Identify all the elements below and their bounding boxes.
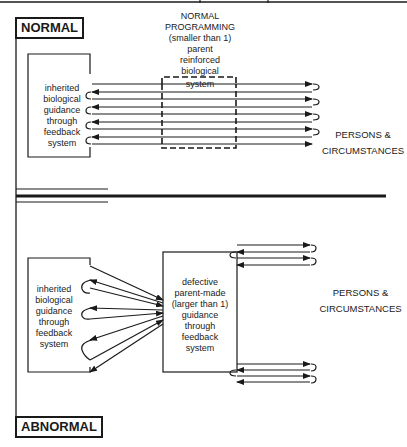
- label-line: reinforced: [155, 55, 245, 66]
- label-line: CIRCUMSTANCES: [318, 143, 407, 159]
- label-line: NORMAL: [155, 11, 245, 22]
- label-line: biological: [155, 66, 245, 77]
- label-line: defective: [165, 277, 235, 288]
- label-line: biological: [30, 295, 78, 306]
- label-line: (smaller than 1): [155, 33, 245, 44]
- label-line: CIRCUMSTANCES: [313, 301, 407, 317]
- label-line: feedback: [165, 332, 235, 343]
- label-line: through: [36, 116, 88, 127]
- label-line: PROGRAMMING: [155, 22, 245, 33]
- label-line: guidance: [30, 306, 78, 317]
- abnormal-inherited-label: inherited biological guidance through fe…: [30, 284, 78, 350]
- label-line: (larger than 1): [165, 299, 235, 310]
- abnormal-persons-label: PERSONS & CIRCUMSTANCES: [313, 285, 407, 317]
- label-line: inherited: [36, 83, 88, 94]
- label-line: guidance: [165, 310, 235, 321]
- label-line: parent: [155, 44, 245, 55]
- normal-inherited-label: inherited biological guidance through fe…: [36, 83, 88, 149]
- abnormal-section-label: ABNORMAL: [15, 416, 103, 438]
- label-line: system: [155, 79, 245, 90]
- normal-programming-label: NORMAL PROGRAMMING (smaller than 1) pare…: [155, 11, 245, 90]
- label-line: inherited: [30, 284, 78, 295]
- label-line: through: [30, 317, 78, 328]
- label-line: PERSONS &: [318, 127, 407, 143]
- label-line: PERSONS &: [313, 285, 407, 301]
- label-line: feedback: [36, 127, 88, 138]
- label-line: through: [165, 321, 235, 332]
- label-line: system: [30, 339, 78, 350]
- label-line: feedback: [30, 328, 78, 339]
- label-line: parent-made: [165, 288, 235, 299]
- label-line: biological: [36, 94, 88, 105]
- normal-persons-label: PERSONS & CIRCUMSTANCES: [318, 127, 407, 159]
- label-line: system: [165, 343, 235, 354]
- abnormal-defective-label: defective parent-made (larger than 1) gu…: [165, 277, 235, 354]
- label-line: system: [36, 138, 88, 149]
- label-line: guidance: [36, 105, 88, 116]
- normal-section-label: NORMAL: [15, 17, 84, 39]
